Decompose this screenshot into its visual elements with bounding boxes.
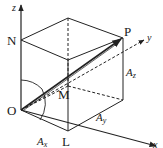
point-p-label: P [124,24,131,39]
component-az-label: Az [125,66,137,80]
component-ay-label: Ay [95,111,107,125]
z-axis-label: z [11,2,16,13]
vector-op [21,39,121,110]
x-axis-label: x [152,139,158,148]
component-ax-label: Ax [36,135,48,148]
point-l-label: L [62,134,70,148]
point-n-label: N [7,33,17,48]
point-m-label: M [58,87,70,102]
vector-box-diagram: z y x N P O M L Az Ay Ax [0,0,163,148]
y-axis-label: y [146,32,152,43]
angle-arc-z [21,80,42,89]
vector-op-shadow [24,43,118,110]
edge-m-bottomright [68,86,123,100]
edge-backtop-p [68,18,123,38]
point-o-label: O [7,103,16,118]
edge-n-fronttop [21,40,68,60]
edge-n-backtop [21,18,68,40]
